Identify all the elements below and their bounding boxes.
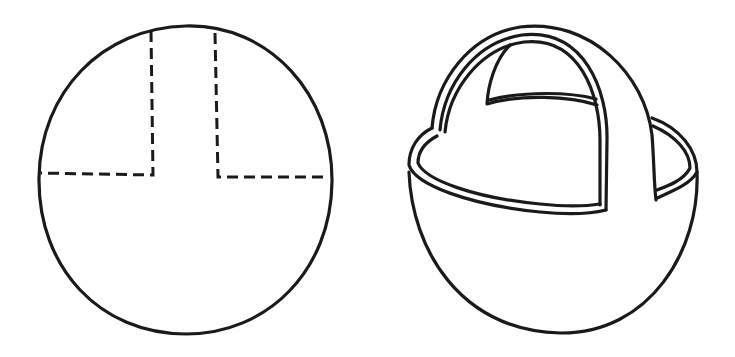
flat-template <box>39 26 332 334</box>
basket-bowl <box>409 172 697 333</box>
basket-diagram <box>0 0 735 357</box>
template-circle-outline <box>39 26 332 334</box>
assembled-basket <box>409 26 697 333</box>
